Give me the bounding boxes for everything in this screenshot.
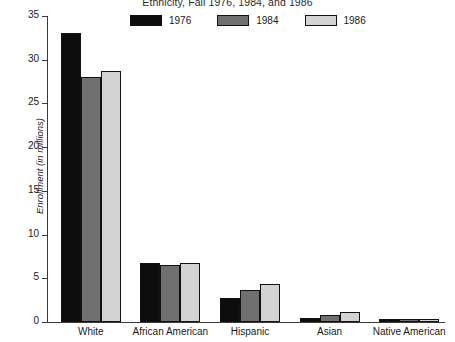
bar-chart: Ethnicity, Fall 1976, 1984, and 1986 197… (0, 0, 455, 342)
x-axis-label: African American (133, 326, 209, 337)
bar (379, 319, 399, 322)
y-tick (42, 235, 47, 236)
bar (140, 263, 160, 322)
y-tick-label: 10 (15, 228, 39, 239)
bar (160, 265, 180, 322)
bar (399, 319, 419, 322)
bar (419, 319, 439, 322)
bar (240, 290, 260, 322)
bar (81, 77, 101, 322)
y-tick-label: 5 (15, 271, 39, 282)
x-axis-label: Hispanic (231, 326, 269, 337)
x-axis-label: White (78, 326, 104, 337)
y-tick-label: 0 (15, 315, 39, 326)
bar (220, 298, 240, 322)
y-axis-line (47, 16, 48, 322)
bar (300, 318, 320, 322)
y-tick (42, 191, 47, 192)
y-tick (42, 278, 47, 279)
x-axis-line (47, 322, 445, 323)
y-tick-label: 35 (15, 9, 39, 20)
bar (61, 33, 81, 322)
y-tick-label: 25 (15, 96, 39, 107)
bar (260, 284, 280, 322)
bar (180, 263, 200, 322)
plot-area: Enrollment (in millions) 05101520253035 … (47, 16, 445, 322)
y-tick (42, 147, 47, 148)
chart-title: Ethnicity, Fall 1976, 1984, and 1986 (0, 0, 455, 8)
bar (101, 71, 121, 322)
x-axis-label: Native American (373, 326, 446, 337)
y-tick (42, 60, 47, 61)
y-tick-label: 20 (15, 140, 39, 151)
y-tick (42, 322, 47, 323)
x-axis-label: Asian (317, 326, 342, 337)
y-tick-label: 30 (15, 53, 39, 64)
bar (340, 312, 360, 322)
bar (320, 315, 340, 322)
y-tick (42, 16, 47, 17)
y-axis-label: Enrollment (in millions) (34, 118, 45, 214)
y-tick-label: 15 (15, 184, 39, 195)
y-tick (42, 103, 47, 104)
